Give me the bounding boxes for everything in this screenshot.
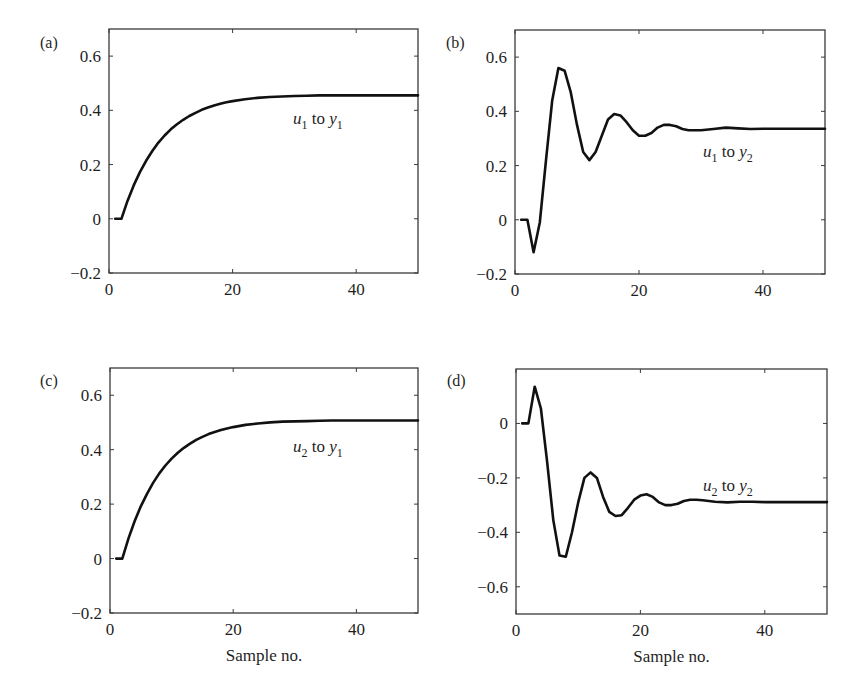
panel-a: (a) −0.200.20.40.602040 u1 to y1 xyxy=(40,29,418,299)
panel-label: (c) xyxy=(40,372,58,390)
response-curve xyxy=(115,95,418,218)
y-tick-label: 0 xyxy=(93,210,102,229)
x-tick-label: 20 xyxy=(632,621,649,640)
x-tick-label: 40 xyxy=(756,621,773,640)
x-tick-label: 40 xyxy=(755,281,772,300)
plot-frame xyxy=(109,29,418,273)
panel-d: (d) −0.6−0.4−0.2002040 u2 to y2 Sample n… xyxy=(447,369,827,666)
series-label: u1 to y1 xyxy=(293,109,343,132)
response-curve xyxy=(521,68,825,252)
y-tick-label: 0.2 xyxy=(80,156,101,175)
series-label: u2 to y2 xyxy=(703,476,753,499)
x-tick-label: 40 xyxy=(348,620,365,639)
y-tick-label: 0.2 xyxy=(486,157,507,176)
figure-canvas: (a) −0.200.20.40.602040 u1 to y1 (b) −0.… xyxy=(0,0,859,698)
plot-frame xyxy=(515,30,825,274)
y-tick-label: −0.2 xyxy=(476,265,507,284)
y-tick-label: 0 xyxy=(94,550,103,569)
y-tick-label: 0.4 xyxy=(81,441,103,460)
y-tick-label: 0.6 xyxy=(80,47,101,66)
x-tick-label: 20 xyxy=(225,620,242,639)
x-axis-label: Sample no. xyxy=(633,647,710,666)
x-tick-label: 0 xyxy=(512,621,521,640)
x-tick-label: 20 xyxy=(224,280,241,299)
panel-label: (d) xyxy=(447,372,466,390)
x-tick-label: 0 xyxy=(511,281,520,300)
ticks: −0.200.20.40.602040 xyxy=(476,30,825,300)
panel-c: (c) −0.200.20.40.602040 u2 to y1 Sample … xyxy=(40,368,418,665)
series-label: u1 to y2 xyxy=(703,142,753,165)
y-tick-label: 0.6 xyxy=(486,48,507,67)
response-curve xyxy=(116,421,418,559)
y-tick-label: 0.2 xyxy=(81,495,102,514)
x-tick-label: 0 xyxy=(105,280,114,299)
y-tick-label: −0.2 xyxy=(477,469,508,488)
panel-label: (b) xyxy=(446,34,465,52)
plot-frame xyxy=(110,368,418,613)
y-tick-label: 0.4 xyxy=(80,101,102,120)
y-tick-label: −0.6 xyxy=(477,578,508,597)
y-tick-label: −0.2 xyxy=(71,604,102,623)
y-tick-label: −0.4 xyxy=(477,523,508,542)
y-tick-label: 0 xyxy=(499,211,508,230)
panel-label: (a) xyxy=(40,34,58,52)
x-tick-label: 40 xyxy=(348,280,365,299)
y-tick-label: 0.4 xyxy=(486,102,508,121)
y-tick-label: −0.2 xyxy=(70,264,101,283)
series-label: u2 to y1 xyxy=(293,437,343,460)
plot-frame xyxy=(516,369,827,614)
ticks: −0.200.20.40.602040 xyxy=(71,368,418,639)
ticks: −0.200.20.40.602040 xyxy=(70,29,418,299)
y-tick-label: 0 xyxy=(500,414,509,433)
response-curve xyxy=(522,387,827,557)
panel-b: (b) −0.200.20.40.602040 u1 to y2 xyxy=(446,30,825,300)
x-tick-label: 0 xyxy=(106,620,115,639)
y-tick-label: 0.6 xyxy=(81,386,102,405)
x-axis-label: Sample no. xyxy=(226,646,303,665)
x-tick-label: 20 xyxy=(631,281,648,300)
